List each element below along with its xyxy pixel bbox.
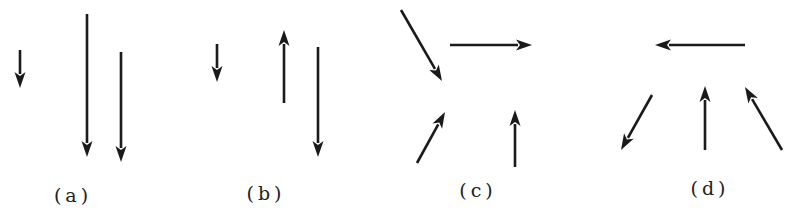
vector-arrow-figure: (a) (b) (c) (d) [0, 0, 802, 221]
arrowhead-icon [745, 87, 758, 104]
panel-b-arrows [212, 30, 324, 157]
arrowhead-icon [116, 146, 127, 162]
panel-d-label: (d) [691, 177, 730, 199]
arrowhead-icon [82, 141, 93, 157]
arrowhead-icon [621, 133, 634, 150]
panel-b-label: (b) [247, 182, 286, 204]
arrowhead-icon [15, 72, 26, 88]
arrow-shaft [417, 124, 438, 163]
arrowhead-icon [429, 64, 442, 81]
arrows-layer [0, 0, 802, 221]
arrowhead-icon [279, 30, 290, 46]
panel-d-arrows [621, 40, 782, 151]
panel-c-arrows [401, 10, 532, 167]
panel-a-arrows [15, 14, 127, 162]
arrowhead-icon [700, 86, 711, 102]
arrow-shaft [628, 95, 652, 138]
arrowhead-icon [655, 40, 671, 51]
arrowhead-icon [432, 112, 445, 129]
arrowhead-icon [313, 141, 324, 157]
panel-a-label: (a) [54, 184, 92, 206]
arrow-shaft [401, 10, 435, 69]
panel-c-label: (c) [459, 179, 496, 201]
arrowhead-icon [516, 40, 532, 51]
arrow-shaft [752, 99, 782, 150]
arrowhead-icon [212, 66, 223, 82]
arrowhead-icon [510, 110, 521, 126]
